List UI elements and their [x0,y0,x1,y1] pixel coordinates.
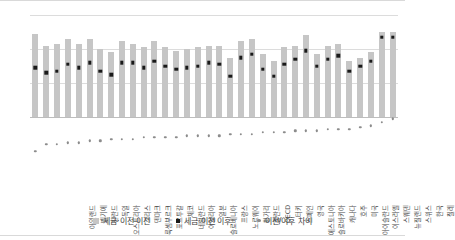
marker-after-tax-transfer [45,71,48,74]
dot-difference [45,143,47,145]
plot-area [30,15,398,151]
marker-after-tax-transfer [185,66,188,69]
legend-swatch-dot-icon [257,219,260,222]
marker-after-tax-transfer [174,68,177,71]
chart-column [149,15,160,151]
chart-column [182,15,193,151]
chart-column [376,15,387,151]
marker-after-tax-transfer [261,68,264,71]
dot-difference [56,143,58,145]
dot-difference [34,150,36,152]
legend-item-before-tax-transfer: 세금·이전 이전 [93,215,150,226]
dot-difference [67,141,69,143]
bar-before-tax-transfer [206,46,212,117]
x-axis-tick-label: 칠레 [448,205,455,240]
chart-column [333,15,344,151]
dot-difference [294,129,296,131]
chart-column [117,15,128,151]
marker-after-tax-transfer [218,63,221,66]
bar-before-tax-transfer [141,47,147,117]
chart-column [355,15,366,151]
marker-after-tax-transfer [77,66,80,69]
chart-column [322,15,333,151]
dot-difference [207,135,209,137]
legend-label-before-tax-transfer: 세금·이전 이전 [103,215,150,226]
chart-column [52,15,63,151]
marker-after-tax-transfer [304,49,307,52]
chart-column [387,15,398,151]
legend-swatch-square-icon [176,219,180,223]
dot-difference [142,136,144,138]
legend-item-difference: 이전/이후 차이 [257,215,312,226]
x-axis-tick-label: 한국 [437,205,444,240]
dot-difference [88,140,90,142]
marker-after-tax-transfer [337,54,340,57]
dot-difference [229,133,231,135]
marker-after-tax-transfer [326,58,329,61]
bar-before-tax-transfer [227,58,233,118]
chart-column [257,15,268,151]
dot-difference [316,129,318,131]
chart-column [192,15,203,151]
chart-column [290,15,301,151]
chart-column [73,15,84,151]
dot-difference [370,124,372,126]
bar-before-tax-transfer [249,39,255,117]
dot-difference [381,121,383,123]
dot-difference [272,131,274,133]
marker-after-tax-transfer [120,61,123,64]
dot-difference [359,126,361,128]
marker-after-tax-transfer [315,64,318,67]
bar-before-tax-transfer [65,39,71,117]
dot-difference [175,136,177,138]
chart-column [366,15,377,151]
bar-before-tax-transfer [271,61,277,117]
marker-after-tax-transfer [369,59,372,62]
bar-before-tax-transfer [97,49,103,117]
x-axis-tick-label: 스웨덴 [404,205,411,240]
bar-before-tax-transfer [195,47,201,117]
bar-before-tax-transfer [260,54,266,117]
dot-difference [326,128,328,130]
marker-after-tax-transfer [131,61,134,64]
chart-column [203,15,214,151]
marker-after-tax-transfer [55,69,58,72]
bar-before-tax-transfer [43,46,49,117]
marker-after-tax-transfer [239,56,242,59]
bar-before-tax-transfer [130,44,136,117]
chart-column [236,15,247,151]
chart-column [160,15,171,151]
dot-difference [99,140,101,142]
marker-after-tax-transfer [348,69,351,72]
marker-after-tax-transfer [66,63,69,66]
marker-after-tax-transfer [229,75,232,78]
bar-before-tax-transfer [238,41,244,118]
chart-column [62,15,73,151]
chart-column [84,15,95,151]
marker-after-tax-transfer [207,61,210,64]
dot-difference [110,138,112,140]
chart-column [225,15,236,151]
marker-after-tax-transfer [34,66,37,69]
x-axis-tick-label: 뉴질랜드 [415,205,422,240]
dot-difference [197,135,199,137]
marker-after-tax-transfer [380,35,383,38]
marker-after-tax-transfer [358,64,361,67]
dot-difference [218,135,220,137]
marker-after-tax-transfer [142,66,145,69]
bar-before-tax-transfer [184,49,190,117]
chart-column [171,15,182,151]
marker-after-tax-transfer [283,63,286,66]
chart-column [106,15,117,151]
bar-before-tax-transfer [390,32,396,117]
chart-column [95,15,106,151]
chart-column [311,15,322,151]
dot-difference [337,128,339,130]
chart-column [30,15,41,151]
chart-column [214,15,225,151]
chart-column [127,15,138,151]
bar-before-tax-transfer [379,32,385,117]
marker-after-tax-transfer [109,73,112,76]
marker-after-tax-transfer [391,35,394,38]
dot-difference [240,133,242,135]
